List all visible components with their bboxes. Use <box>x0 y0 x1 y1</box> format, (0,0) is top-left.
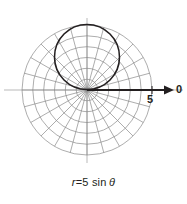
grid-spoke-330deg <box>87 90 143 123</box>
grid-spoke-315deg <box>87 90 133 136</box>
polar-axis-zero-label: 0 <box>176 83 182 95</box>
grid-spoke-225deg <box>41 90 87 136</box>
grid-spoke-60deg <box>87 34 120 90</box>
caption-theta: θ <box>109 176 115 188</box>
grid-spoke-210deg <box>31 90 87 123</box>
polar-axis-tick-label-5: 5 <box>147 93 153 105</box>
figure-caption: r=5 sin θ <box>0 176 187 188</box>
right-arrow-icon <box>164 86 174 95</box>
grid-spoke-135deg <box>41 44 87 90</box>
caption-expression: 5 sin <box>82 176 106 188</box>
grid-spoke-300deg <box>87 90 120 146</box>
grid-spoke-240deg <box>55 90 88 146</box>
polar-plot-figure <box>0 0 187 204</box>
grid-spoke-120deg <box>55 34 88 90</box>
grid-spoke-45deg <box>87 44 133 90</box>
